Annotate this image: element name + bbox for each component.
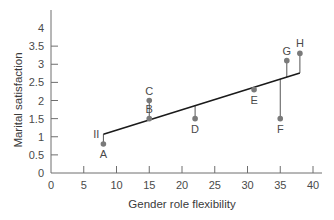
y-tick-label: 3 xyxy=(38,58,44,70)
data-point xyxy=(192,116,198,122)
point-label: B xyxy=(146,103,153,115)
point-label: C xyxy=(145,85,153,97)
x-axis-title: Gender role flexibility xyxy=(128,198,236,210)
y-axis-title: Marital satisfaction xyxy=(12,52,24,147)
data-point xyxy=(101,141,107,147)
data-points: ABCDEFGH xyxy=(100,37,304,160)
data-point xyxy=(146,116,152,122)
x-tick-label: 40 xyxy=(307,179,319,191)
line-start-marker: II xyxy=(93,128,99,140)
point-label: E xyxy=(250,94,257,106)
y-tick-label: 0 xyxy=(38,167,44,179)
x-tick-label: 0 xyxy=(48,179,54,191)
x-tick-label: 25 xyxy=(209,179,221,191)
ticks: 051015202530354000.511.522.533.54 xyxy=(29,22,319,191)
data-point xyxy=(284,58,290,64)
x-tick-label: 35 xyxy=(274,179,286,191)
y-tick-label: 0.5 xyxy=(29,149,44,161)
x-tick-label: 5 xyxy=(81,179,87,191)
point-label: G xyxy=(283,45,292,57)
x-tick-label: 30 xyxy=(241,179,253,191)
x-tick-label: 15 xyxy=(143,179,155,191)
point-label: F xyxy=(277,123,284,135)
regression-line-path xyxy=(103,73,300,134)
point-label: H xyxy=(296,37,304,49)
point-label: A xyxy=(100,148,108,160)
data-point xyxy=(297,51,303,57)
y-tick-label: 1 xyxy=(38,131,44,143)
y-tick-label: 2.5 xyxy=(29,76,44,88)
data-point xyxy=(277,116,283,122)
y-tick-label: 2 xyxy=(38,95,44,107)
y-tick-label: 4 xyxy=(38,22,44,34)
axes xyxy=(51,10,322,173)
x-tick-label: 20 xyxy=(176,179,188,191)
data-point xyxy=(251,87,257,93)
point-label: D xyxy=(191,123,199,135)
data-point xyxy=(146,98,152,104)
y-tick-label: 3.5 xyxy=(29,40,44,52)
x-tick-label: 10 xyxy=(110,179,122,191)
y-tick-label: 1.5 xyxy=(29,113,44,125)
residual-lines xyxy=(103,53,300,144)
scatter-chart: Marital satisfaction Gender role flexibi… xyxy=(0,0,334,220)
